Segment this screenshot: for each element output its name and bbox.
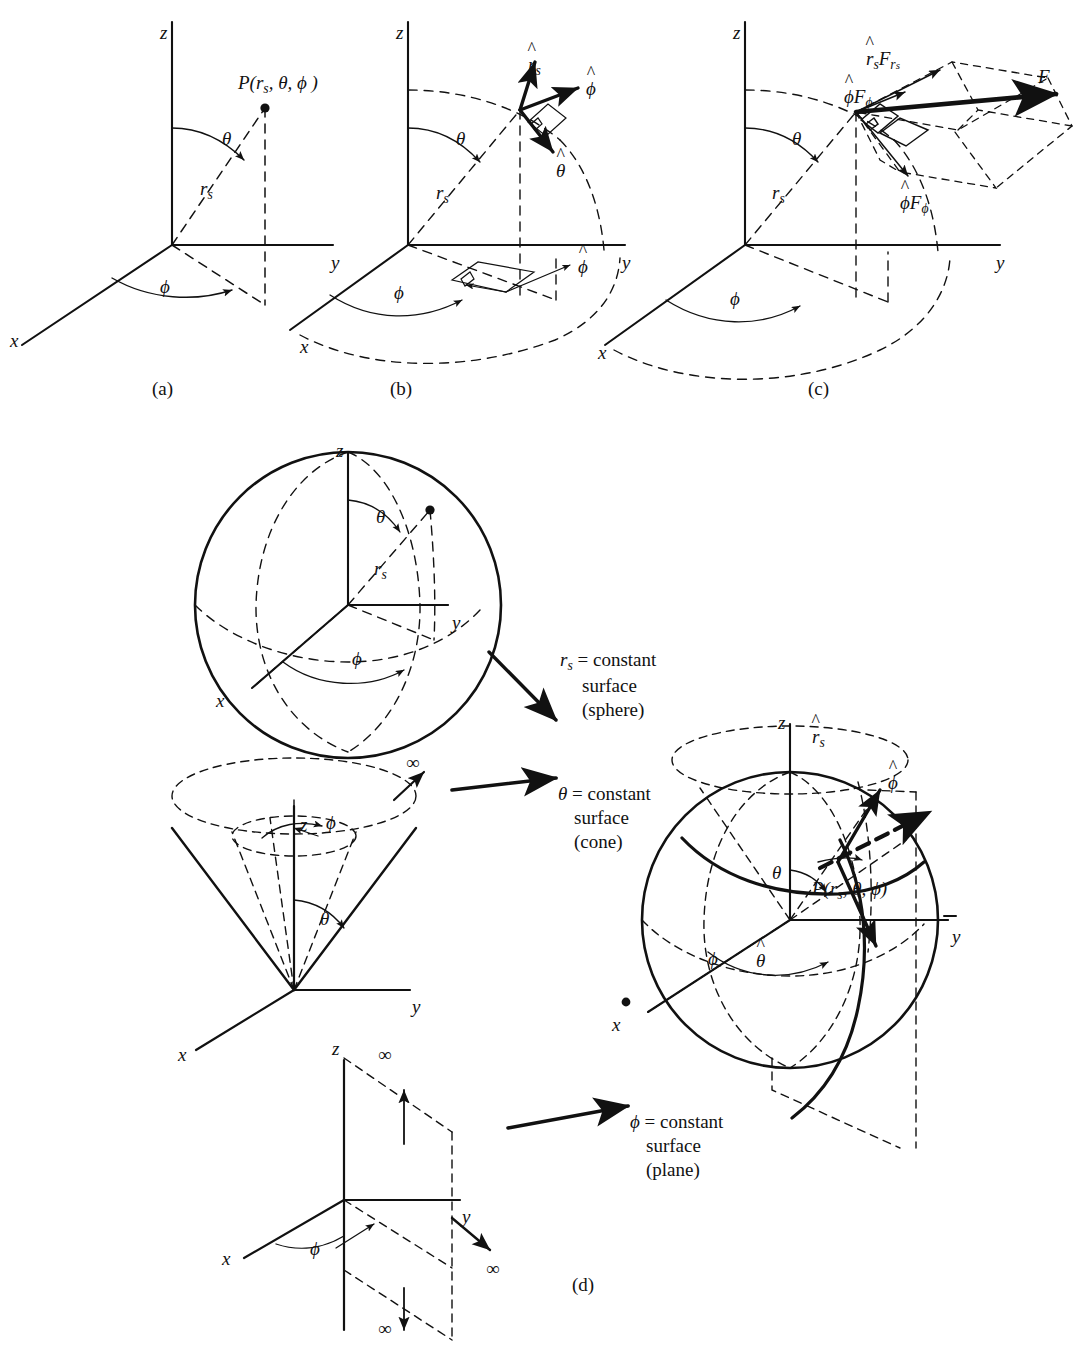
cone-caption-line3: (cone) xyxy=(574,831,623,852)
theta-label-combined: θ xyxy=(772,862,781,884)
r-component-label-c: rsFrs xyxy=(866,48,900,73)
phi-label-sphere: ϕ xyxy=(352,648,362,670)
cone-surface-drawing xyxy=(172,758,556,1050)
panel-label-b: (b) xyxy=(390,378,412,400)
x-axis-a xyxy=(22,245,172,345)
phi-label-c: ϕ xyxy=(730,288,740,310)
r-hat-combined xyxy=(838,790,880,862)
axis-label-x-c: x xyxy=(598,342,606,364)
panel-c-drawing xyxy=(605,22,1072,379)
theta-arc-c xyxy=(745,128,818,162)
point-dot-combined xyxy=(622,998,631,1007)
meridian-lower-b xyxy=(560,140,604,250)
point-dot-sphere xyxy=(425,505,434,514)
sphere-caption-line2: surface xyxy=(582,675,637,696)
infinity-label-cone: ∞ xyxy=(406,752,420,774)
infinity-bottom-plane: ∞ xyxy=(378,1318,392,1340)
phi-component-label-c: ϕFϕ xyxy=(844,86,873,111)
r-hat-label-combined: rs xyxy=(812,726,825,751)
phi-hat-label-combined: ϕ xyxy=(888,772,898,794)
meridian-left-combined xyxy=(704,772,790,1068)
axis-label-y-a: y xyxy=(331,252,339,274)
cone-edge-right xyxy=(294,828,416,990)
point-dot-a xyxy=(260,103,269,112)
theta-arc-sphere xyxy=(348,500,400,532)
theta-label-cone: θ xyxy=(320,908,329,930)
phi-arrow-plane xyxy=(336,1224,374,1248)
x-axis-cone xyxy=(196,990,294,1050)
phi-label-cone: ϕ xyxy=(326,812,336,834)
theta-label-a: θ xyxy=(222,128,231,150)
phi-arc-sphere xyxy=(283,662,404,683)
theta-arc-cone xyxy=(294,900,344,928)
plane-caption-line1: = constant xyxy=(645,1111,724,1132)
proj-sphere xyxy=(348,605,434,640)
axis-label-z-c: z xyxy=(733,22,740,44)
panel-label-c: (c) xyxy=(808,378,829,400)
sphere-caption-symbol: rs xyxy=(560,649,573,670)
combined-surface-drawing xyxy=(622,724,956,1148)
axis-label-x-combined: x xyxy=(612,1014,620,1036)
axis-label-x-a: x xyxy=(10,330,18,352)
plane-top-edge xyxy=(344,1058,452,1132)
sphere-caption-line1: = constant xyxy=(577,649,656,670)
r-line-sphere xyxy=(348,510,430,605)
panel-b-drawing xyxy=(290,22,625,363)
axis-label-x-sphere: x xyxy=(216,690,224,712)
plane-caption: ϕ = constant surface (plane) xyxy=(630,1110,723,1181)
cone-caption-line2: surface xyxy=(574,807,629,828)
x-axis-plane xyxy=(244,1200,344,1258)
sphere-caption-arrow xyxy=(489,652,556,720)
r-label-c: rs xyxy=(772,182,785,207)
phi-hat-label-b: ϕ xyxy=(586,78,596,100)
cone-caption-arrow xyxy=(452,778,556,790)
cone-edge-left xyxy=(172,828,294,990)
sphere-surface-drawing xyxy=(195,452,556,758)
sphere-caption: rs = constant surface (sphere) xyxy=(560,648,656,721)
r-label-a: rs xyxy=(200,178,213,203)
phi-arc-a xyxy=(112,278,232,297)
point-meridian-sphere xyxy=(430,510,435,640)
r-hat-label-b: rs xyxy=(528,54,541,79)
axis-label-x-plane: x xyxy=(222,1248,230,1270)
equator-combined xyxy=(642,920,924,976)
theta-hat-label-b: θ xyxy=(556,160,565,182)
panel-label-a: (a) xyxy=(152,378,173,400)
sphere-caption-line3: (sphere) xyxy=(582,699,644,720)
cone-caption-symbol: θ xyxy=(558,783,567,804)
theta-arc-b xyxy=(408,128,480,162)
phi-label-plane: ϕ xyxy=(310,1238,320,1260)
axis-label-x-b: x xyxy=(300,336,308,358)
theta-hat-combined xyxy=(838,862,876,946)
axis-label-z-plane: z xyxy=(332,1038,339,1060)
axis-label-z-a: z xyxy=(160,22,167,44)
phi-hat-b xyxy=(520,88,578,110)
xy-projection-a xyxy=(172,245,265,305)
ground-arrow-b xyxy=(466,285,506,292)
plane-lower-combined xyxy=(772,1058,900,1148)
point-label-a: P(rs, θ, ϕ ) xyxy=(238,72,318,97)
cone-caption-line1: = constant xyxy=(572,783,651,804)
panel-label-d: (d) xyxy=(572,1274,594,1296)
xy-projection-c xyxy=(745,245,888,302)
r-label-sphere: rs xyxy=(374,558,387,583)
theta-arc-a xyxy=(172,128,244,160)
cone-gen-left-combined xyxy=(700,788,790,920)
angle-marker-c2 xyxy=(880,118,928,146)
plane-caption-line2: surface xyxy=(646,1135,701,1156)
axis-label-z-sphere: z xyxy=(336,440,343,462)
axis-label-y-combined: y xyxy=(952,926,960,948)
right-angle-marker-b xyxy=(528,104,566,136)
infinity-top-plane: ∞ xyxy=(378,1044,392,1066)
theta-label-c: θ xyxy=(792,128,801,150)
axis-label-z-combined: z xyxy=(778,712,785,734)
theta-label-sphere: θ xyxy=(376,506,385,528)
inf-right-arrow-plane xyxy=(452,1218,490,1250)
equator-arc-c xyxy=(614,258,950,379)
axis-label-y-sphere: y xyxy=(452,612,460,634)
plane-diag-dash xyxy=(344,1200,452,1268)
plane-bottom-edge xyxy=(344,1270,452,1340)
theta-hat-label-combined: θ xyxy=(756,950,765,972)
F-vector-label-c: F xyxy=(1038,66,1050,88)
infinity-right-plane: ∞ xyxy=(486,1258,500,1280)
